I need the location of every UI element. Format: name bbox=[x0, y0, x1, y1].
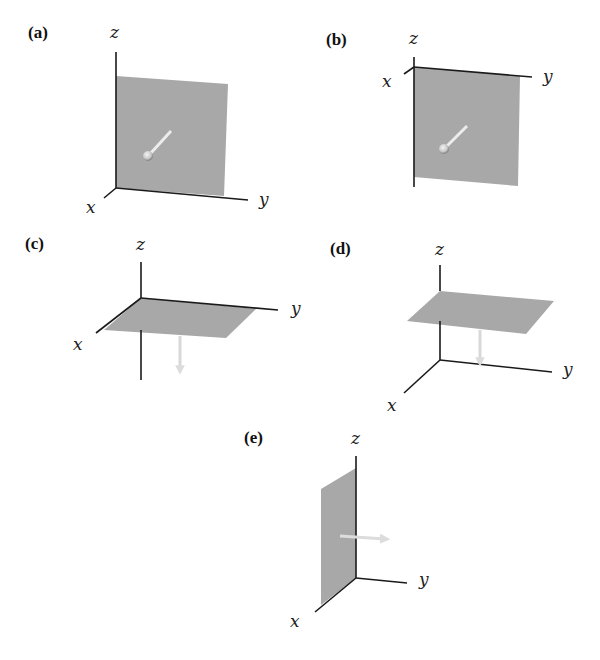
panel-d: (d) z x y bbox=[330, 239, 573, 415]
panel-d-z-label: z bbox=[434, 239, 445, 259]
panel-d-y-axis bbox=[440, 360, 552, 372]
panel-d-y-label: y bbox=[562, 359, 573, 379]
panel-e-x-label: x bbox=[290, 611, 300, 631]
panel-a-y-label: y bbox=[258, 189, 269, 209]
panel-e-y-label: y bbox=[418, 569, 429, 589]
panel-c-plane bbox=[104, 298, 256, 338]
panel-a-z-label: z bbox=[109, 22, 120, 42]
panel-d-x-label: x bbox=[387, 395, 397, 415]
panel-c-y-label: y bbox=[290, 298, 301, 318]
panel-d-label: (d) bbox=[330, 239, 351, 258]
panel-d-x-axis bbox=[404, 360, 440, 393]
panel-a-x-axis bbox=[104, 188, 116, 198]
panel-b-label: (b) bbox=[326, 30, 347, 49]
panel-c-z-label: z bbox=[135, 234, 146, 254]
panel-e-y-axis bbox=[356, 578, 407, 583]
panel-a: (a) z x y bbox=[28, 22, 269, 217]
panel-b-y-label: y bbox=[542, 66, 553, 86]
panel-e: (e) z x y bbox=[244, 428, 429, 631]
panel-b-x-label: x bbox=[382, 71, 392, 91]
panel-b-x-axis bbox=[404, 67, 414, 74]
panel-a-label: (a) bbox=[28, 23, 48, 42]
panel-c: (c) z x y bbox=[25, 234, 301, 380]
panel-e-label: (e) bbox=[244, 428, 263, 447]
panel-b-arrow-ball-icon bbox=[439, 144, 449, 154]
panel-b-z-label: z bbox=[408, 28, 419, 48]
figure-canvas: (a) z x y (b) z x y (c) z x y (d bbox=[0, 0, 600, 660]
panel-e-z-label: z bbox=[350, 428, 361, 448]
panel-c-x-label: x bbox=[73, 334, 83, 354]
panel-c-label: (c) bbox=[25, 234, 44, 253]
panel-d-plane bbox=[407, 291, 554, 334]
panel-b: (b) z x y bbox=[326, 28, 553, 187]
panel-a-x-label: x bbox=[86, 197, 96, 217]
panel-a-arrow-ball-icon bbox=[143, 151, 153, 161]
panel-a-plane bbox=[116, 76, 228, 196]
